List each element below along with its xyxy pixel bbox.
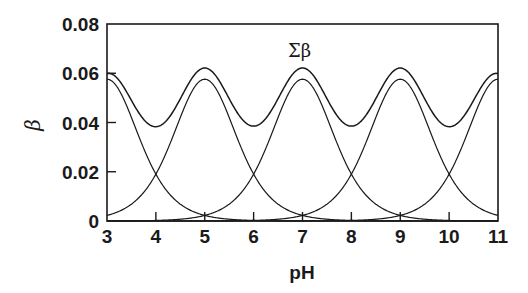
y-axis-ticks: 00.020.040.060.08	[62, 14, 116, 232]
x-tick-label: 4	[151, 226, 162, 247]
x-axis-label: pH	[289, 262, 314, 283]
y-tick-label: 0	[88, 211, 99, 232]
sum-beta-line	[107, 68, 498, 127]
beta-curve-pka-11	[107, 79, 498, 221]
x-tick-label: 5	[199, 226, 210, 247]
x-tick-label: 3	[102, 226, 113, 247]
sum-beta-annotation: Σβ	[288, 40, 311, 61]
x-tick-label: 11	[488, 226, 509, 247]
y-tick-label: 0.04	[62, 113, 99, 134]
x-tick-label: 7	[297, 226, 308, 247]
x-axis-ticks: 34567891011	[102, 212, 509, 247]
x-tick-label: 9	[395, 226, 406, 247]
y-tick-label: 0.06	[62, 63, 99, 84]
x-tick-label: 10	[439, 226, 460, 247]
y-tick-label: 0.02	[62, 162, 99, 183]
x-tick-label: 8	[346, 226, 357, 247]
beta-curve-pka-3	[107, 79, 498, 221]
individual-beta-curves	[107, 79, 498, 221]
beta-curve-pka-9	[107, 79, 498, 221]
beta-curve-pka-5	[107, 79, 498, 221]
y-tick-label: 0.08	[62, 14, 99, 35]
buffer-capacity-chart: 00.020.040.060.08 34567891011 β pH Σβ	[0, 0, 528, 293]
beta-curve-pka-7	[107, 79, 498, 221]
sum-beta-curve	[107, 68, 498, 127]
y-axis-label: β	[21, 119, 45, 132]
x-tick-label: 6	[248, 226, 259, 247]
